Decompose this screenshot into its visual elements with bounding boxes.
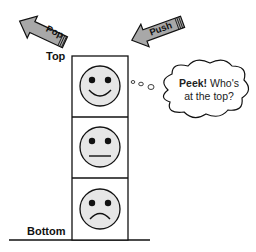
peek-bold: Peek! — [179, 77, 207, 89]
frown-face-icon — [80, 189, 120, 229]
peek-line2: at the top? — [170, 90, 248, 103]
stack-diagram — [0, 0, 256, 252]
peek-text: Peek! Who's at the top? — [170, 77, 248, 103]
smile-face-icon — [80, 66, 120, 106]
top-label: Top — [46, 50, 65, 62]
neutral-face-icon — [80, 127, 120, 167]
peek-line1: Who's — [207, 77, 239, 89]
bottom-label: Bottom — [27, 225, 66, 237]
thought-bubble-icon — [131, 81, 154, 90]
